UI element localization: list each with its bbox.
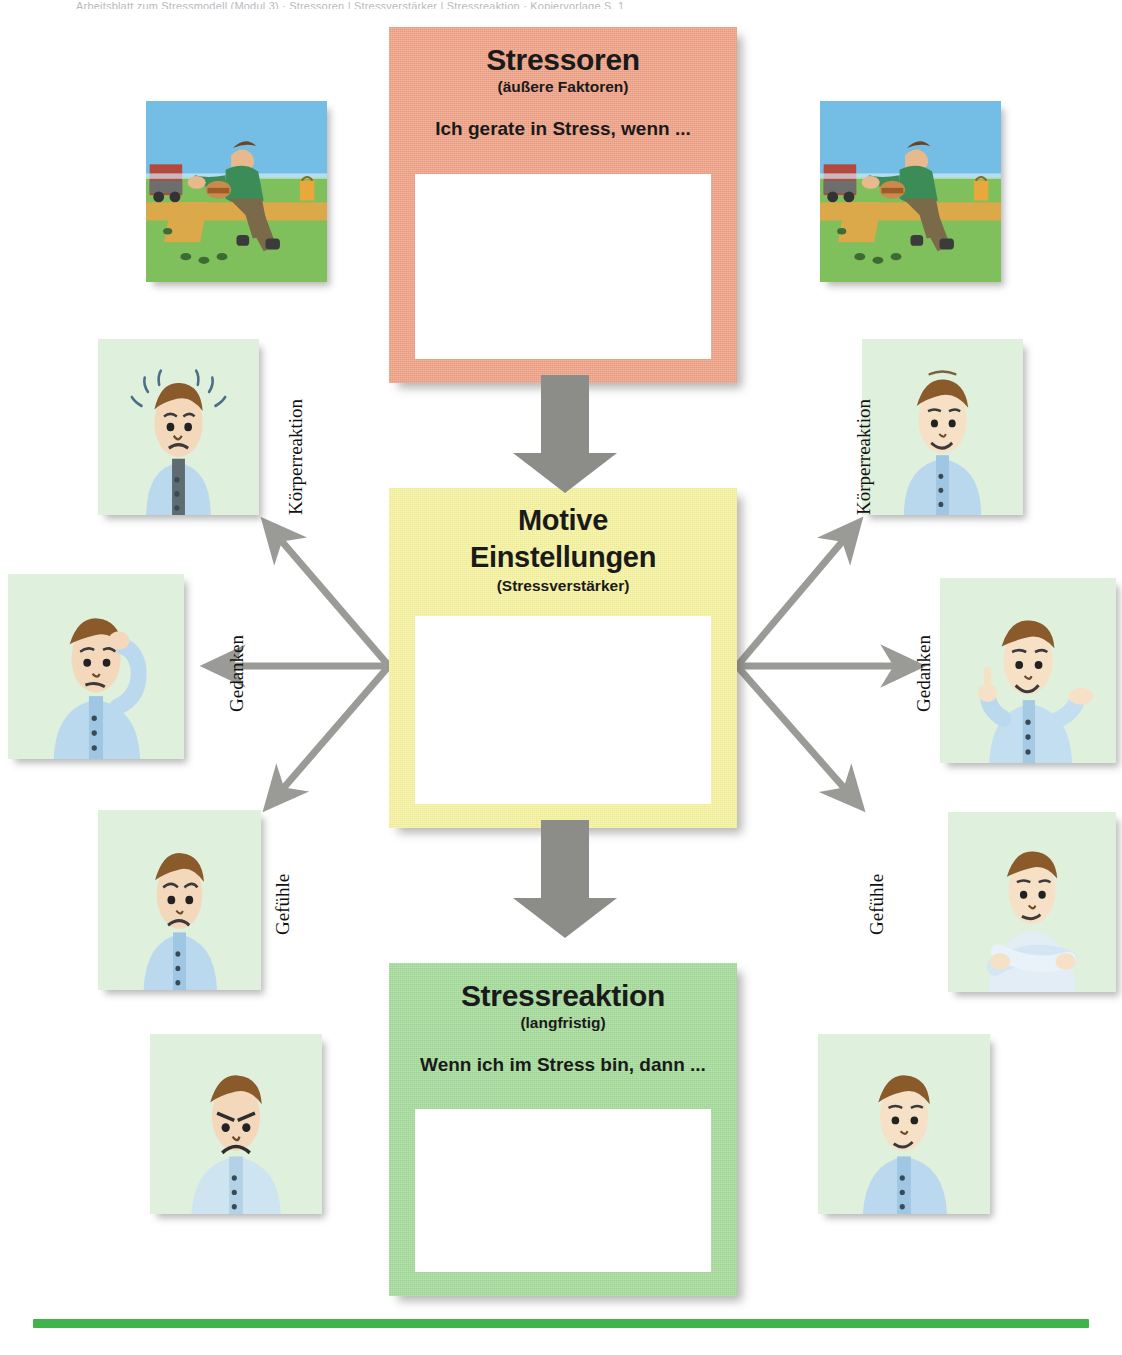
illustration-reaktion-right — [818, 1034, 990, 1214]
box-stressoren: Stressoren (äußere Faktoren) Ich gerate … — [389, 27, 737, 383]
stressoren-write-area[interactable] — [415, 174, 711, 359]
box-motive-title-line1: Motive — [389, 488, 737, 539]
motive-write-area[interactable] — [415, 616, 711, 804]
label-gefuehle-left: Gefühle — [272, 874, 294, 935]
bottom-green-rule — [33, 1319, 1089, 1328]
label-gefuehle-right: Gefühle — [866, 874, 888, 935]
illustration-koerper-left — [98, 339, 259, 515]
spoke-koerperreaktion-right — [737, 523, 858, 666]
arrow-motive-to-stressreaktion — [505, 820, 625, 940]
spoke-gefuehle-right — [737, 666, 860, 806]
illustration-koerper-right — [862, 339, 1023, 515]
spoke-koerperreaktion-left — [266, 523, 389, 666]
box-stressreaktion: Stressreaktion (langfristig) Wenn ich im… — [389, 963, 737, 1296]
spoke-gefuehle-left — [268, 666, 389, 806]
label-gedanken-right: Gedanken — [913, 635, 935, 712]
arrow-stressoren-to-motive — [505, 375, 625, 495]
label-koerperreaktion-right: Körperreaktion — [853, 399, 875, 515]
illustration-reaktion-left — [150, 1034, 322, 1214]
box-stressreaktion-prompt: Wenn ich im Stress bin, dann ... — [389, 1054, 737, 1076]
illustration-stressor-right — [820, 101, 1001, 282]
box-motive-einstellungen: Motive Einstellungen (Stressverstärker) — [389, 488, 737, 828]
box-stressoren-title: Stressoren — [389, 27, 737, 77]
box-motive-title-line2: Einstellungen — [389, 539, 737, 576]
box-stressreaktion-subtitle: (langfristig) — [389, 1014, 737, 1032]
box-motive-subtitle: (Stressverstärker) — [389, 577, 737, 595]
illustration-gedanken-right — [940, 578, 1116, 763]
box-stressreaktion-title: Stressreaktion — [389, 963, 737, 1013]
label-koerperreaktion-left: Körperreaktion — [285, 399, 307, 515]
illustration-gedanken-left — [8, 574, 184, 759]
box-stressoren-subtitle: (äußere Faktoren) — [389, 78, 737, 96]
cropped-header-text: Arbeitsblatt zum Stressmodell (Modul 3) … — [76, 0, 896, 9]
illustration-stressor-left — [146, 101, 327, 282]
label-gedanken-left: Gedanken — [226, 635, 248, 712]
stressreaktion-write-area[interactable] — [415, 1109, 711, 1272]
illustration-gefuehle-left — [98, 810, 261, 990]
box-stressoren-prompt: Ich gerate in Stress, wenn ... — [389, 118, 737, 140]
illustration-gefuehle-right — [948, 812, 1116, 992]
